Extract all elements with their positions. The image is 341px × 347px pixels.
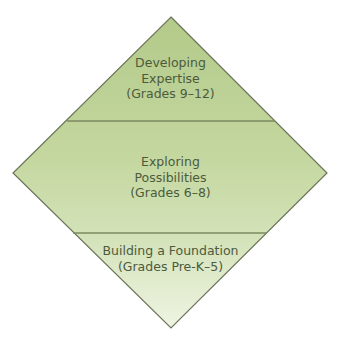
tier-top-line-3: (Grades 9–12) (0, 86, 341, 102)
tier-middle-label: Exploring Possibilities (Grades 6–8) (0, 154, 341, 201)
tier-top-label: Developing Expertise (Grades 9–12) (0, 55, 341, 102)
tier-bottom-line-1: Building a Foundation (0, 243, 341, 259)
tier-top-line-1: Developing (0, 55, 341, 71)
tier-bottom-line-2: (Grades Pre-K–5) (0, 259, 341, 275)
diagram: Developing Expertise (Grades 9–12) Explo… (0, 0, 341, 347)
tier-middle-line-2: Possibilities (0, 170, 341, 186)
tier-middle-line-1: Exploring (0, 154, 341, 170)
tier-middle-line-3: (Grades 6–8) (0, 185, 341, 201)
tier-bottom-label: Building a Foundation (Grades Pre-K–5) (0, 243, 341, 274)
tier-top-line-2: Expertise (0, 71, 341, 87)
